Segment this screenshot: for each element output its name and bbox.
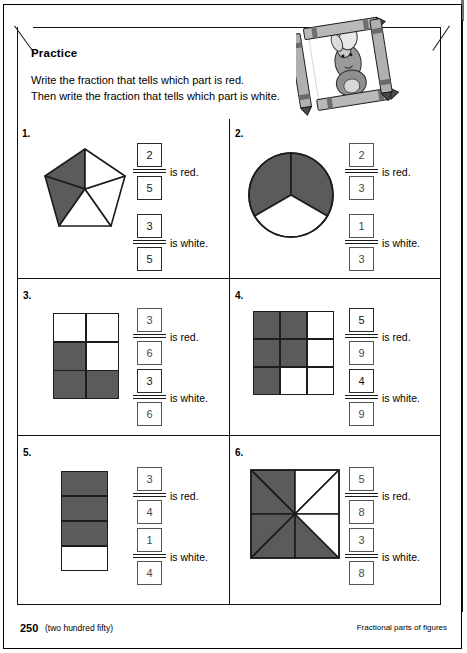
figure-cell [281, 312, 306, 338]
figure-cell [62, 547, 107, 570]
label-is-white-2: is white. [382, 237, 420, 249]
figure-cell [254, 368, 279, 394]
answer-numerator-white-5[interactable]: 1 [137, 528, 162, 552]
fraction-bar-red-1 [133, 169, 166, 173]
answer-denominator-red-3[interactable]: 6 [137, 341, 162, 365]
figure-cell [54, 314, 85, 341]
answer-numerator-white-2[interactable]: 1 [349, 214, 374, 238]
figure-rect-grid-3 [53, 313, 119, 399]
answer-denominator-white-6[interactable]: 8 [349, 561, 374, 585]
answer-denominator-red-4[interactable]: 9 [349, 341, 374, 365]
rabbit-with-crayons-icon [296, 10, 404, 118]
answer-denominator-white-5[interactable]: 4 [137, 561, 162, 585]
answer-numerator-red-3[interactable]: 3 [137, 308, 162, 332]
answer-denominator-red-5[interactable]: 4 [137, 500, 162, 524]
figure-cell [308, 312, 333, 338]
label-is-red-6: is red. [382, 490, 411, 502]
section-title: Practice [31, 47, 77, 59]
problem-number-6: 6. [235, 447, 243, 458]
problem-grid-horizontal-divider-1 [17, 278, 441, 279]
footer-page-number: 250 [20, 622, 38, 634]
figure-cell [62, 522, 107, 545]
figure-cell [87, 343, 118, 370]
answer-numerator-red-2[interactable]: 2 [349, 143, 374, 167]
answer-numerator-red-1[interactable]: 2 [137, 143, 162, 167]
figure-cell [87, 371, 118, 398]
fraction-bar-white-3 [133, 395, 166, 399]
fraction-bar-red-6 [345, 493, 378, 497]
answer-denominator-white-4[interactable]: 9 [349, 402, 374, 426]
fraction-bar-red-4 [345, 334, 378, 338]
instructions: Write the fraction that tells which part… [31, 72, 280, 104]
figure-pentagon-sectors-1 [37, 141, 133, 237]
answer-denominator-white-2[interactable]: 3 [349, 247, 374, 271]
footer-page-number-words: (two hundred fifty) [45, 623, 113, 633]
problem-number-3: 3. [23, 290, 31, 301]
figure-cell [308, 368, 333, 394]
fraction-bar-white-6 [345, 554, 378, 558]
answer-numerator-red-5[interactable]: 3 [137, 467, 162, 491]
instructions-line-2: Then write the fraction that tells which… [31, 88, 280, 104]
fraction-bar-red-5 [133, 493, 166, 497]
answer-denominator-red-6[interactable]: 8 [349, 500, 374, 524]
problem-grid-horizontal-divider-2 [17, 435, 441, 436]
label-is-white-3: is white. [170, 392, 208, 404]
label-is-white-4: is white. [382, 392, 420, 404]
figure-cell [281, 368, 306, 394]
label-is-red-1: is red. [170, 166, 199, 178]
problem-grid-vertical-divider [229, 119, 230, 605]
problem-number-2: 2. [235, 128, 243, 139]
answer-numerator-white-3[interactable]: 3 [137, 369, 162, 393]
fraction-bar-white-5 [133, 554, 166, 558]
label-is-red-2: is red. [382, 166, 411, 178]
answer-numerator-white-4[interactable]: 4 [349, 369, 374, 393]
worksheet-page: Practice Write the fraction that tells w… [0, 0, 467, 653]
label-is-red-5: is red. [170, 490, 199, 502]
problem-number-1: 1. [22, 128, 30, 139]
label-is-white-1: is white. [170, 237, 208, 249]
label-is-white-6: is white. [382, 551, 420, 563]
answer-denominator-white-3[interactable]: 6 [137, 402, 162, 426]
answer-numerator-white-1[interactable]: 3 [137, 214, 162, 238]
label-is-white-5: is white. [170, 551, 208, 563]
figure-cell [254, 340, 279, 366]
figure-circle-sectors-2 [244, 148, 338, 246]
figure-square-eighths-6 [249, 468, 341, 564]
answer-numerator-red-6[interactable]: 5 [349, 467, 374, 491]
answer-denominator-red-2[interactable]: 3 [349, 176, 374, 200]
fraction-bar-white-4 [345, 395, 378, 399]
instructions-line-1: Write the fraction that tells which part… [31, 72, 280, 88]
fraction-bar-white-2 [345, 240, 378, 244]
figure-cell [308, 340, 333, 366]
figure-cell [254, 312, 279, 338]
label-is-red-3: is red. [170, 331, 199, 343]
answer-numerator-red-4[interactable]: 5 [349, 308, 374, 332]
figure-rect-grid-5 [61, 471, 108, 571]
fraction-bar-white-1 [133, 240, 166, 244]
fraction-bar-red-2 [345, 169, 378, 173]
figure-cell [54, 371, 85, 398]
problem-number-4: 4. [235, 290, 243, 301]
content-box-corner-cut-right [426, 26, 450, 54]
figure-rect-grid-4 [253, 311, 334, 395]
answer-denominator-red-1[interactable]: 5 [137, 176, 162, 200]
label-is-red-4: is red. [382, 331, 411, 343]
figure-cell [54, 343, 85, 370]
footer-topic: Fractional parts of figures [357, 623, 447, 632]
figure-cell [62, 497, 107, 520]
fraction-bar-red-3 [133, 334, 166, 338]
figure-cell [281, 340, 306, 366]
answer-numerator-white-6[interactable]: 3 [349, 528, 374, 552]
figure-cell [62, 472, 107, 495]
figure-cell [87, 314, 118, 341]
answer-denominator-white-1[interactable]: 5 [137, 247, 162, 271]
problem-number-5: 5. [23, 447, 31, 458]
